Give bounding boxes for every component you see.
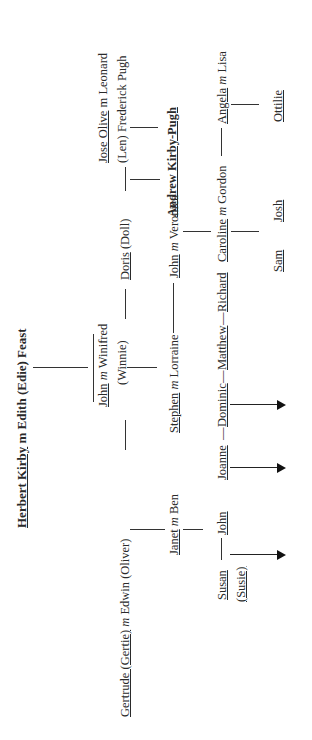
josh: Josh: [271, 200, 285, 222]
janet-couple: Janet m Ben: [167, 494, 181, 555]
doris: Doris (Doll): [118, 219, 132, 280]
susie-nickname: (Susie): [234, 567, 248, 602]
john-gen3: John: [215, 511, 229, 535]
sam: Sam: [271, 250, 285, 272]
arrow-down-icon: [230, 554, 278, 555]
john-couple: John m Winifred: [96, 324, 110, 407]
angela-couple: Angela m Lisa: [215, 51, 229, 124]
joanne: Joanne: [215, 445, 229, 480]
gertrude-couple: Gertrude (Gertie) m Edwin (Oliver): [118, 539, 132, 717]
ottilie: Ottilie: [271, 90, 285, 122]
stephen-couple: Stephen m Lorraine: [167, 334, 181, 433]
edith-feast: Edith (Edie) Feast: [14, 328, 29, 429]
dominic: Dominic: [215, 383, 229, 427]
winnie-nickname: (Winnie): [115, 340, 129, 385]
john-veronica-couple: John m Veronica: [167, 195, 181, 278]
connector: [33, 367, 88, 368]
richard: Richard: [215, 272, 229, 312]
caroline-couple: Caroline m Gordon: [215, 165, 229, 262]
arrow-down-icon: [230, 404, 278, 405]
leonard-pugh: (Len) Frederick Pugh: [115, 55, 129, 163]
herbert-kirby: Herbert Kirby: [14, 447, 29, 528]
arrow-down-icon: [230, 467, 278, 468]
matthew: Matthew: [215, 326, 229, 370]
susan: Susan: [215, 570, 229, 600]
family-tree: Herbert Kirby m Edith (Edie) Feast Gertr…: [0, 0, 312, 740]
tree-title: Herbert Kirby m Edith (Edie) Feast: [15, 328, 29, 528]
jose-couple: Jose Olive m Leonard: [96, 53, 110, 163]
